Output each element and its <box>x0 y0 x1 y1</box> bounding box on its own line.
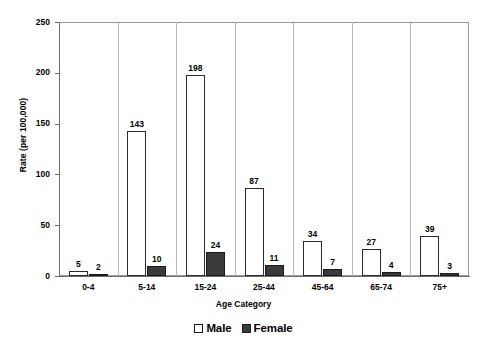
group-separator <box>293 22 294 276</box>
bar-value-label: 27 <box>356 238 387 247</box>
x-tick-label: 75+ <box>410 282 469 292</box>
y-tick-label: 0 <box>22 272 50 281</box>
group-separator <box>352 22 353 276</box>
group-separator <box>118 22 119 276</box>
legend-label: Male <box>206 322 231 334</box>
x-tick-label: 25-44 <box>235 282 294 292</box>
y-tick-label: 100 <box>22 170 50 179</box>
bar-chart: Rate (per 100,000) 050100150200250 0-45-… <box>0 0 487 349</box>
chart-legend: MaleFemale <box>0 322 487 334</box>
bar-female <box>147 266 166 276</box>
female-swatch-icon <box>242 324 251 333</box>
group-separator <box>176 22 177 276</box>
bar-value-label: 87 <box>239 177 270 186</box>
bar-female <box>206 252 225 276</box>
bar-value-label: 39 <box>414 225 445 234</box>
bar-value-label: 2 <box>83 263 114 272</box>
bar-value-label: 4 <box>376 261 407 270</box>
bar-value-label: 3 <box>434 262 465 271</box>
x-tick-label: 15-24 <box>176 282 235 292</box>
bar-value-label: 7 <box>317 258 348 267</box>
bar-female <box>440 273 459 276</box>
y-tick-label: 150 <box>22 119 50 128</box>
y-tick-label: 250 <box>22 18 50 27</box>
bar-value-label: 34 <box>297 230 328 239</box>
legend-item: Female <box>242 322 293 334</box>
x-tick-label: 65-74 <box>352 282 411 292</box>
legend-item: Male <box>194 322 231 334</box>
group-separator <box>235 22 236 276</box>
bar-female <box>265 265 284 276</box>
male-swatch-icon <box>194 324 203 333</box>
bar-value-label: 24 <box>200 241 231 250</box>
bar-value-label: 10 <box>141 255 172 264</box>
y-tick-label: 50 <box>22 221 50 230</box>
x-tick-label: 5-14 <box>118 282 177 292</box>
y-tick-label: 200 <box>22 68 50 77</box>
bars-layer <box>59 22 469 276</box>
bar-value-label: 198 <box>180 64 211 73</box>
group-separator <box>410 22 411 276</box>
bar-female <box>89 274 108 276</box>
x-tick-label: 45-64 <box>293 282 352 292</box>
bar-female <box>382 272 401 276</box>
bar-female <box>323 269 342 276</box>
x-axis-line <box>59 276 470 277</box>
legend-label: Female <box>254 322 293 334</box>
bar-value-label: 143 <box>121 120 152 129</box>
x-axis-title: Age Category <box>0 299 487 309</box>
x-tick-label: 0-4 <box>59 282 118 292</box>
bar-value-label: 11 <box>259 254 290 263</box>
